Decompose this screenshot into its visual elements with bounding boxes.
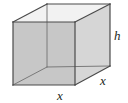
prism-front-face — [13, 22, 75, 85]
label-width-x: x — [57, 89, 63, 102]
label-height-h: h — [114, 29, 121, 42]
rectangular-prism-drawing — [0, 0, 128, 103]
label-depth-x: x — [100, 74, 106, 87]
box-figure: h x x — [0, 0, 128, 103]
